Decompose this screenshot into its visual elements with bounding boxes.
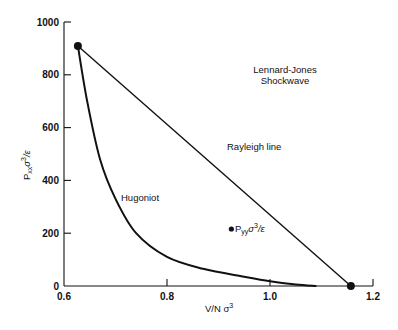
hugoniot-label: Hugoniot [121,192,159,203]
shocked-state-point [74,42,82,50]
rayleigh-line-label: Rayleigh line [227,141,281,152]
x-axis-label: V/N σ3 [205,302,233,314]
initial-state-point [347,282,355,290]
y-tick-label: 0 [53,281,59,292]
series-lines [78,46,351,286]
axes [64,22,373,286]
pyy-label: Pyyσ3/ε [235,222,266,236]
svg-text:Pxxσ3/ε: Pxxσ3/ε [20,149,33,180]
x-tick-label: 1.0 [263,291,277,302]
shockwave-chart: 020040060080010000.60.81.01.2 Lennard-Jo… [0,0,398,330]
y-tick-label: 400 [42,175,59,186]
y-tick-label: 800 [42,69,59,80]
x-tick-label: 1.2 [366,291,380,302]
tick-labels: 020040060080010000.60.81.01.2 [37,17,381,303]
pyy-point [229,226,234,231]
x-tick-label: 0.8 [160,291,174,302]
rayleigh-line-curve [78,46,351,286]
x-tick-label: 0.6 [57,291,71,302]
y-tick-label: 600 [42,122,59,133]
chart-title-line2: Shockwave [261,75,310,86]
chart-title-line1: Lennard-Jones [253,64,317,75]
y-axis-label: Pxxσ3/ε [20,149,33,180]
y-tick-label: 1000 [37,17,60,28]
y-tick-label: 200 [42,228,59,239]
